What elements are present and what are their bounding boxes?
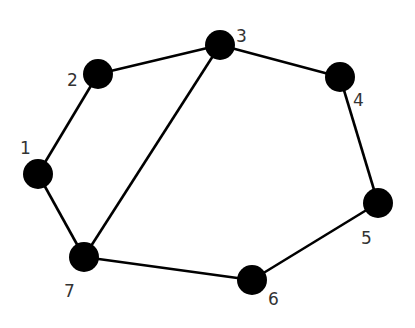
node-label-7: 7 <box>64 281 75 301</box>
edge-2-3 <box>98 45 220 74</box>
graph-diagram: 1234567 <box>0 0 415 328</box>
node-label-3: 3 <box>236 26 247 46</box>
node-label-1: 1 <box>20 138 31 158</box>
node-label-4: 4 <box>353 90 364 110</box>
node-6 <box>237 265 267 295</box>
edge-3-4 <box>220 45 340 77</box>
nodes-layer <box>23 30 393 295</box>
node-4 <box>325 62 355 92</box>
edge-6-7 <box>84 257 252 280</box>
node-1 <box>23 159 53 189</box>
edge-5-6 <box>252 203 378 280</box>
node-label-2: 2 <box>67 70 78 90</box>
node-label-6: 6 <box>268 289 279 309</box>
node-label-5: 5 <box>361 228 372 248</box>
node-5 <box>363 188 393 218</box>
node-2 <box>83 59 113 89</box>
node-7 <box>69 242 99 272</box>
node-3 <box>205 30 235 60</box>
